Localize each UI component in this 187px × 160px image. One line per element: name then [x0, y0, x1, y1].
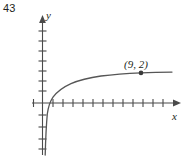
- log-curve: [45, 72, 172, 155]
- y-axis-label: y: [46, 9, 51, 21]
- x-axis-arrowhead: [173, 100, 181, 107]
- x-axis-label: x: [172, 110, 177, 122]
- plot-canvas: [0, 0, 187, 160]
- y-axis-arrowhead: [39, 15, 46, 23]
- point-marker-9-2: [139, 71, 144, 76]
- point-coordinate-label: (9, 2): [124, 58, 148, 70]
- log-function-graph-figure: 43: [0, 0, 187, 160]
